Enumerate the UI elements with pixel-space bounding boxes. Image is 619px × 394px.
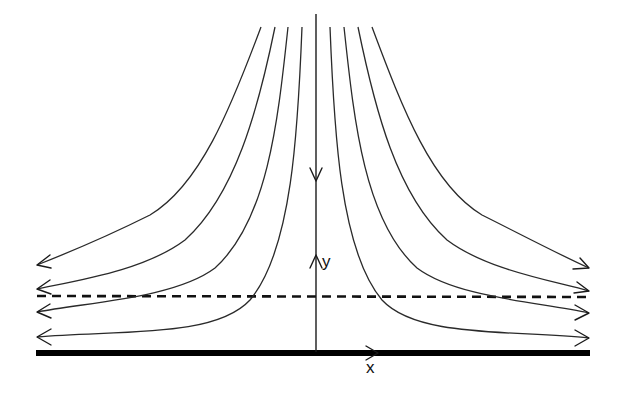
- stagnation-flow-diagram: y x: [0, 0, 619, 394]
- arrow-right-2-icon: [575, 305, 589, 320]
- arrow-left-1-icon: [37, 255, 51, 268]
- left-streamlines: [37, 27, 302, 337]
- y-axis-label: y: [322, 253, 331, 270]
- right-streamlines: [330, 27, 589, 338]
- diagram-svg: [0, 0, 619, 394]
- streamline-left-3: [37, 27, 288, 312]
- x-axis-label: x: [366, 359, 375, 376]
- streamline-right-2: [344, 27, 589, 313]
- streamline-left-1: [37, 27, 261, 265]
- dashed-reference-line: [37, 296, 590, 297]
- streamline-right-4: [372, 27, 589, 268]
- streamline-left-2: [37, 27, 275, 289]
